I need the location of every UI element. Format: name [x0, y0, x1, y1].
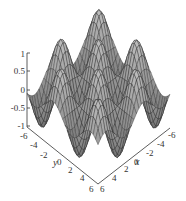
y-tick-label: 6	[89, 184, 94, 194]
z-tick-label: 0	[21, 85, 26, 95]
y-tick-label: 4	[80, 173, 85, 183]
x-tick-label: -2	[146, 148, 154, 158]
x-tick-label: -4	[157, 139, 165, 149]
y-tick-label: -2	[40, 150, 48, 160]
x-tick-label: 6	[100, 184, 105, 194]
x-tick-label: 2	[124, 164, 129, 174]
y-axis-label: y	[52, 157, 58, 168]
y-tick-label: 2	[68, 165, 73, 175]
x-tick-label: -6	[168, 130, 176, 140]
surface-plot: 1 0.5 0 -0.5 -1 -6 -4 -2 0 2 4 6 y 6 4 2…	[0, 0, 186, 201]
y-tick-label: 0	[57, 157, 62, 167]
z-tick-label: 0.5	[14, 66, 26, 76]
z-tick-label: 1	[21, 49, 26, 59]
x-axis-label: x	[134, 156, 140, 167]
x-tick-label: 4	[112, 173, 117, 183]
z-tick-label: -1	[18, 121, 26, 131]
z-axis: 1 0.5 0 -0.5 -1	[11, 49, 30, 131]
y-tick-label: -4	[30, 140, 38, 150]
z-tick-label: -0.5	[11, 103, 26, 113]
y-tick-label: -6	[20, 131, 28, 141]
surface-mesh	[27, 10, 170, 158]
